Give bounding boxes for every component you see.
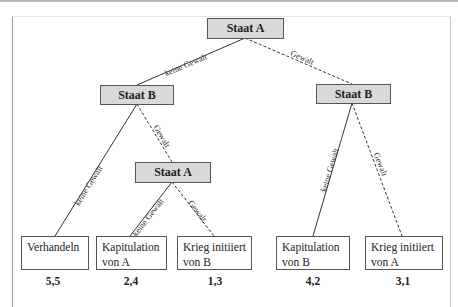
outcome-label-2: von B [183, 255, 246, 270]
payoff-kapitulation-a: 2,4 [111, 275, 151, 287]
outcome-label: Verhandeln [27, 240, 83, 255]
outcome-kapitulation-a: Kapitulation von A [96, 236, 167, 270]
outcome-label: Krieg initiiert [371, 240, 437, 255]
payoff-krieg-b: 1,3 [195, 275, 235, 287]
payoff-kapitulation-b: 4,2 [293, 275, 333, 287]
outcome-label-2: von A [371, 255, 437, 270]
outcome-label-2: von B [282, 255, 344, 270]
outcome-label: Krieg initiiert [183, 240, 246, 255]
outcome-krieg-a: Krieg initiiert von A [365, 236, 443, 270]
outcome-krieg-b: Krieg initiiert von B [177, 236, 252, 270]
payoff-verhandeln: 5,5 [33, 275, 73, 287]
node-left-staat-b: Staat B [100, 85, 174, 105]
outcome-label: Kapitulation [282, 240, 344, 255]
payoff-krieg-a: 3,1 [383, 275, 423, 287]
outcome-verhandeln: Verhandeln [21, 236, 89, 270]
node-right-staat-b: Staat B [316, 84, 391, 104]
outcome-kapitulation-b: Kapitulation von B [276, 236, 350, 270]
outcome-label: Kapitulation [102, 240, 161, 255]
node-root-staat-a: Staat A [207, 18, 284, 39]
outcome-label-2: von A [102, 255, 161, 270]
node-mid-staat-a: Staat A [135, 162, 211, 183]
